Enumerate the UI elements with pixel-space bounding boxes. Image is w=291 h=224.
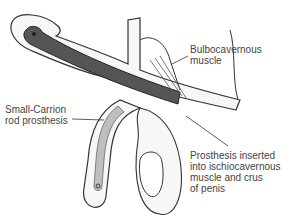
leader-inserted: [186, 116, 228, 146]
label-prosthesis-inserted: Prosthesis inserted into ischiocavernous…: [190, 150, 281, 194]
label-small-carrion-rod: Small-Carrion rod prosthesis: [5, 104, 68, 126]
label-bulbocavernous-muscle: Bulbocavernous muscle: [190, 44, 262, 66]
leader-bulbocavernous: [172, 56, 188, 64]
anatomical-illustration: Bulbocavernous muscle Small-Carrion rod …: [0, 0, 291, 224]
rod-prosthesis-dark: [24, 26, 180, 104]
rod-tip: [32, 32, 36, 36]
